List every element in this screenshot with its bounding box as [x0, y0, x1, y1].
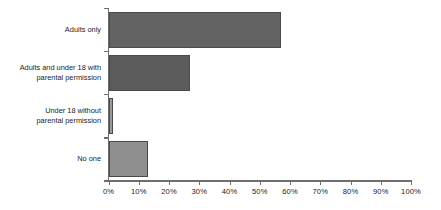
category-label: Adults only — [0, 25, 101, 35]
bar — [109, 141, 148, 177]
category-label: Adults and under 18 with parental permis… — [0, 63, 101, 82]
category-label: No one — [0, 154, 101, 164]
y-axis-tick — [104, 8, 109, 9]
x-axis-tick — [139, 181, 140, 185]
x-axis-tick — [381, 181, 382, 185]
y-axis-tick — [104, 94, 109, 95]
bar-chart: Adults onlyAdults and under 18 with pare… — [0, 0, 441, 210]
x-axis-tick — [260, 181, 261, 185]
y-axis-tick — [104, 137, 109, 138]
x-axis-tick-label: 100% — [391, 187, 431, 196]
x-axis-tick — [320, 181, 321, 185]
x-axis-tick — [199, 181, 200, 185]
bar — [109, 55, 191, 91]
x-axis-tick — [290, 181, 291, 185]
x-axis-tick — [169, 181, 170, 185]
x-axis-tick — [351, 181, 352, 185]
bar — [109, 12, 281, 48]
y-axis-tick — [104, 51, 109, 52]
x-axis-tick — [411, 181, 412, 185]
x-axis-tick — [230, 181, 231, 185]
x-axis-tick — [109, 181, 110, 185]
category-label: Under 18 without parental permission — [0, 106, 101, 125]
bar — [109, 98, 114, 134]
